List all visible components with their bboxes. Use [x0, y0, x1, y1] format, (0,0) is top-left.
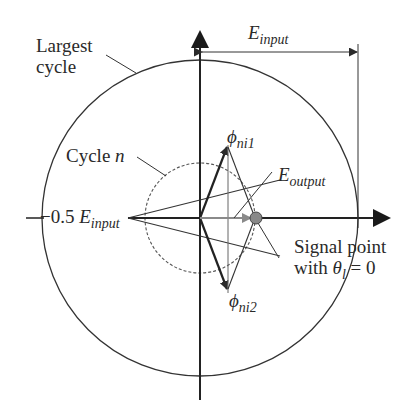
e-input-sub: input — [260, 32, 289, 47]
largest-cycle-line1: Largest — [36, 35, 93, 56]
phi1-to-signal-line — [228, 147, 255, 218]
cycle-n-text: Cycle — [66, 145, 110, 166]
signal-point — [250, 212, 262, 224]
phi2-to-signal-line — [228, 218, 255, 289]
e-input-top-label: Einput — [248, 22, 288, 50]
phi1-symbol: ϕ — [227, 126, 237, 147]
signal-point-leader — [255, 218, 279, 258]
phi1-sub: ni1 — [237, 136, 255, 151]
e-output-E: E — [278, 164, 290, 185]
neg-half-sub: input — [91, 216, 120, 231]
largest-cycle-label: Largest cycle — [36, 35, 93, 77]
phi-ni2-vector — [200, 218, 227, 289]
phi-ni1-vector — [200, 147, 227, 218]
signal-with: with — [294, 257, 333, 278]
signal-eq-zero: = 0 — [346, 257, 376, 278]
phi2-sub: ni2 — [239, 300, 257, 315]
cycle-n-label: Cycle n — [66, 145, 125, 166]
neg-half-prefix: −0.5 — [40, 206, 79, 227]
e-output-label: Eoutput — [278, 164, 325, 192]
phi2-symbol: ϕ — [229, 290, 239, 311]
largest-cycle-line2: cycle — [36, 56, 93, 77]
signal-point-label: Signal point with θl = 0 — [294, 236, 386, 285]
e-output-sub: output — [290, 174, 326, 189]
neg-half-E: E — [79, 206, 91, 227]
phi-ni1-label: ϕni1 — [227, 126, 255, 154]
e-input-E: E — [248, 22, 260, 43]
largest-cycle-leader — [106, 55, 136, 73]
cycle-n-leader — [137, 157, 166, 176]
signal-line1: Signal point — [294, 236, 386, 257]
cycle-n-var: n — [115, 145, 125, 166]
theta-symbol: θ — [333, 257, 342, 278]
phi-ni2-label: ϕni2 — [229, 290, 257, 318]
neg-half-e-input-label: −0.5 Einput — [40, 206, 120, 234]
signal-line2: with θl = 0 — [294, 257, 386, 285]
